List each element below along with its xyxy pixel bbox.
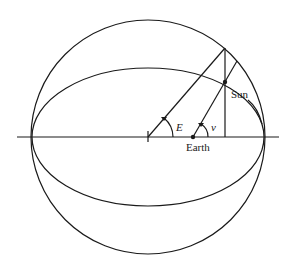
angle-arc-E <box>164 118 173 137</box>
earth-label: Earth <box>186 141 210 153</box>
sun-label: Sun <box>231 88 249 100</box>
angle-arc-nu <box>201 124 208 137</box>
earth-dot <box>191 135 195 139</box>
eccentric-anomaly-label: E <box>175 121 183 133</box>
body-position-dot <box>223 80 227 84</box>
orbit-anomaly-diagram: Sun Earth E ν <box>0 0 296 271</box>
true-anomaly-label: ν <box>211 121 216 133</box>
